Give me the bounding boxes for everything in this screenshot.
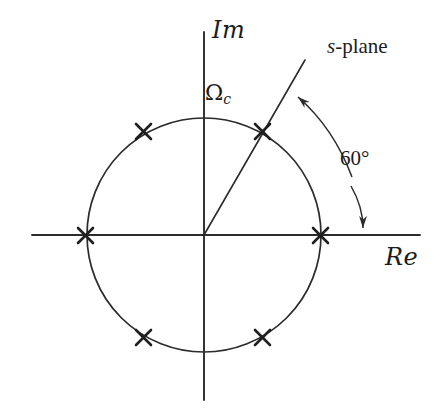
s-plane-suffix: -plane — [335, 34, 387, 58]
plot-canvas — [0, 0, 445, 410]
cutoff-frequency-label: Ωc — [205, 82, 231, 106]
s-plane-italic-s: s — [327, 34, 335, 58]
s-plane-pole-zero-figure: Im Re Ωc s-plane 60° — [0, 0, 445, 410]
s-plane-label: s-plane — [327, 36, 388, 57]
imaginary-axis-label: Im — [212, 18, 245, 42]
angle-arc-lower — [351, 186, 363, 228]
omega-symbol: Ω — [205, 80, 223, 105]
real-axis-label: Re — [385, 245, 418, 269]
omega-subscript: c — [223, 91, 231, 107]
angle-label: 60° — [340, 148, 369, 169]
pole-marker-minus60deg — [255, 330, 270, 345]
